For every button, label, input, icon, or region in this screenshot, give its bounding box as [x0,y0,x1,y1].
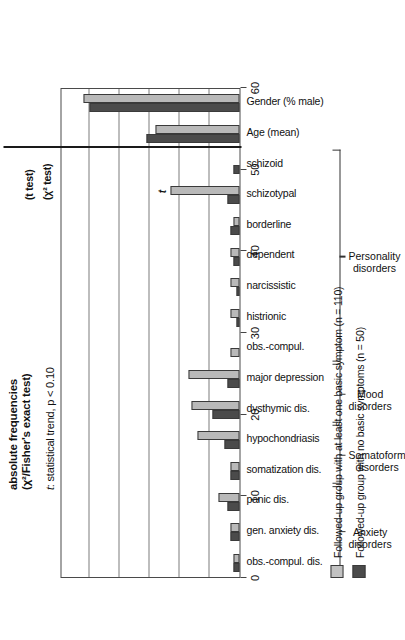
trend-marker: t [156,190,167,193]
bar-group [230,462,239,480]
bar [233,554,239,563]
bar [230,532,239,541]
bar [233,165,239,174]
bar [236,287,239,296]
bar-group [191,401,239,419]
bar [212,410,239,419]
bar [227,195,239,204]
bar-group [188,370,239,388]
bar [230,471,239,480]
bar [197,431,239,440]
trend-text: : statistical trend, p < 0.10 [43,367,55,487]
separator-line [3,146,241,148]
legend-swatch [352,565,365,578]
legend-label: Followed-up group with at least one basi… [331,287,343,558]
bar-group [230,348,239,357]
legend-item: Followed-up group with no basic symptoms… [352,287,365,578]
bar [233,217,239,226]
bar [170,186,239,195]
category-label: Gender (% male) [246,95,323,107]
value-tick [240,250,246,251]
category-label: major depression [246,371,323,383]
chi-square-test-label: (χ² test) [40,164,52,200]
trend-symbol: t [43,487,55,490]
value-tick [240,577,246,578]
value-tick [240,169,246,170]
value-tick-label: 60 [248,82,260,94]
bar [227,379,239,388]
bar-group [230,278,239,296]
t-test-label: (t test) [22,170,34,200]
category-label: schizoid [246,157,282,169]
bar [146,134,239,143]
bar-group [230,309,239,327]
value-tick [240,414,246,415]
bar-group [233,165,239,174]
legend-label: Followed-up group with no basic symptoms… [353,327,365,558]
category-label: narcissistic [246,279,295,291]
category-label: Age (mean) [246,126,299,138]
absolute-frequencies-note: absolute frequencies (χ²/Fisher's exact … [6,367,32,490]
bar-group [230,217,239,235]
category-label: dysthymic dis. [246,402,309,414]
bar [230,309,239,318]
bar [188,370,239,379]
category-label: gen. anxiety dis. [246,524,318,536]
bar-group [197,431,239,449]
bar [230,248,239,257]
bar [224,440,239,449]
legend-item: Followed-up group with at least one basi… [330,287,343,578]
bar [233,257,239,266]
value-tick-label: 0 [248,575,260,581]
group-name: Personalitydisorders [348,250,400,274]
bar-group [218,493,239,511]
category-label: panic dis. [246,493,288,505]
value-tick [240,495,246,496]
category-label: dependent [246,248,294,260]
category-label: obs.-compul. [246,340,304,352]
group-name-line: Personality [348,250,400,262]
note-line-2: (χ²/Fisher's exact test) [19,367,32,490]
category-label: histrionic [246,310,285,322]
value-tick [240,332,246,333]
bar [233,563,239,572]
chart-legend: Followed-up group with at least one basi… [330,287,374,578]
category-label: hypochondriasis [246,432,319,444]
bar-group [230,523,239,541]
bar [230,348,239,357]
bar [83,94,239,103]
note-line-1: absolute frequencies [6,367,19,490]
bar-group [230,248,239,266]
bar [155,125,239,134]
legend-swatch [330,565,343,578]
category-label: somatization dis. [246,463,321,475]
bar [227,502,239,511]
header-notes: absolute frequencies (χ²/Fisher's exact … [6,367,55,490]
value-tick-label: 30 [248,327,260,339]
category-label: borderline [246,218,291,230]
category-label: schizotypal [246,187,296,199]
bar-group [146,125,239,143]
plot-area: t [60,88,240,578]
bar [230,523,239,532]
group-name-line: disorders [352,262,395,274]
value-tick [240,87,246,88]
bar [230,226,239,235]
trend-legend-note: t: statistical trend, p < 0.10 [43,367,55,490]
bar [236,318,239,327]
bar [89,103,239,112]
bar [230,278,239,287]
category-label: obs.-compul. dis. [246,555,322,567]
bar [191,401,239,410]
bar-group [83,94,239,112]
bar-group [170,186,239,204]
bar-group [233,554,239,572]
bar [230,462,239,471]
bar-series-container: t [61,89,239,577]
bar [218,493,239,502]
